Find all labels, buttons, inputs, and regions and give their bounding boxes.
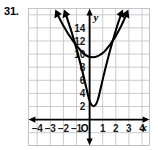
x-tick-label: 3 [126, 123, 132, 134]
y-axis-label: y [92, 11, 99, 23]
exercise-figure: 31. [0, 0, 158, 150]
coordinate-graph: –4 –3 –2 –1 1 2 3 4 O 2 4 6 8 10 12 14 [28, 8, 150, 146]
problem-number: 31. [4, 6, 19, 17]
x-axis-label: x [141, 121, 148, 133]
x-tick-label: –2 [58, 123, 70, 134]
x-tick-label: 1 [100, 123, 106, 134]
x-tick-label: –4 [32, 123, 44, 134]
origin-label: O [81, 123, 89, 134]
y-tick-label: 2 [80, 101, 86, 112]
x-tick-label: 2 [113, 123, 119, 134]
x-tick-label: –3 [45, 123, 57, 134]
y-tick-label: 4 [80, 88, 86, 99]
y-tick-label: 14 [74, 23, 86, 34]
